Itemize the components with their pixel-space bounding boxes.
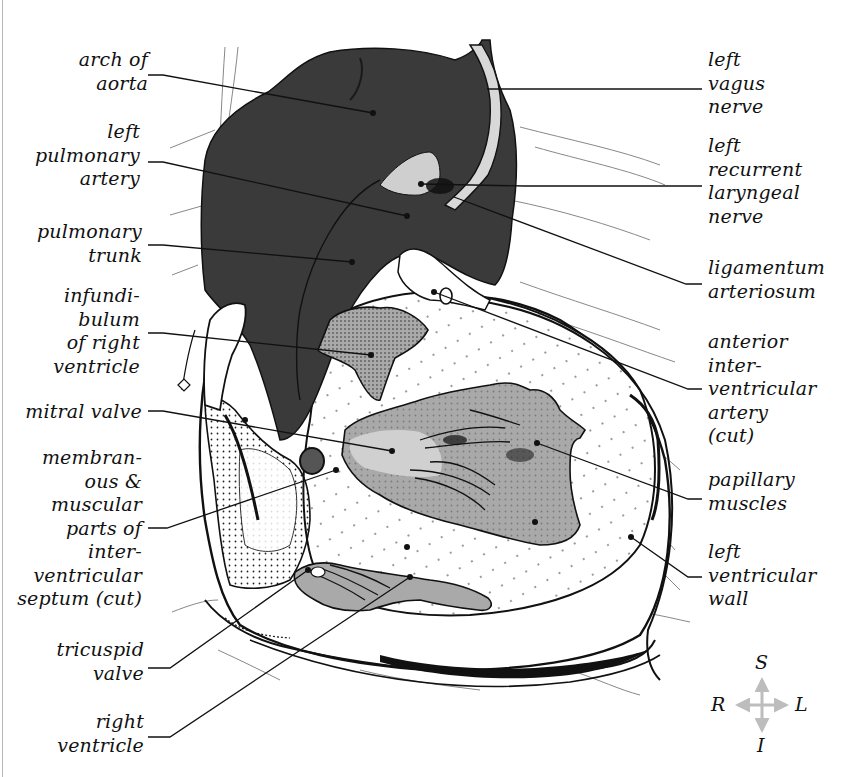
label-interventricular-septum: membran- ous & muscular parts of inter- … [17,446,142,611]
pointer-dot [305,567,311,573]
label-mitral-valve: mitral valve [25,400,142,424]
label-left-vagus-nerve: left vagus nerve [708,48,765,119]
pointer-dot [370,110,376,116]
label-left-recurrent-laryngeal-nerve: left recurrent laryngeal nerve [708,134,802,228]
label-ligamentum-arteriosum: ligamentum arteriosum [708,256,825,303]
label-right-ventricle: right ventricle [57,710,144,757]
orientation-compass-arrows [738,680,786,730]
compass-inferior-label: I [757,734,765,756]
pointer-dot [404,544,410,550]
compass-left-label: L [795,693,808,715]
pointer-dot [333,467,339,473]
compass-right-label: R [711,693,725,715]
label-infundibulum-of-right-ventricle: infundi- bulum of right ventricle [53,284,140,378]
compass-superior-label: S [755,651,768,673]
pointer-dot [389,448,395,454]
label-left-pulmonary-artery: left pulmonary artery [35,120,140,191]
pointer-dot [349,259,355,265]
pointer-dot [368,352,374,358]
mitral-valve-ring [300,448,324,474]
label-papillary-muscles: papillary muscles [708,468,795,515]
label-pulmonary-trunk: pulmonary trunk [37,220,142,267]
pointer-dot [407,574,413,580]
label-anterior-interventricular-artery: anterior inter- ventricular artery (cut) [708,330,817,448]
heart-diagram: arch of aorta left pulmonary artery pulm… [0,0,845,777]
label-left-ventricular-wall: left ventricular wall [708,540,817,611]
pointer-dot [628,534,634,540]
pointer-dot [404,213,410,219]
pointer-dot [534,440,540,446]
pointer-dot [418,181,424,187]
label-arch-of-aorta: arch of aorta [79,48,148,95]
pointer-dot [431,289,437,295]
label-tricuspid-valve: tricuspid valve [56,638,144,685]
pointer-dot [532,519,538,525]
